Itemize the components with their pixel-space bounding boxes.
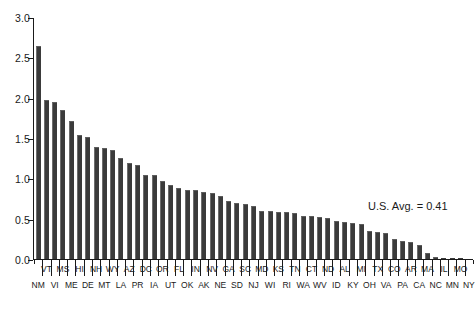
bar-slot bbox=[448, 18, 456, 259]
bar-slot bbox=[365, 18, 373, 259]
x-axis-label-il: IL bbox=[440, 264, 447, 275]
bar-slot bbox=[109, 18, 117, 259]
bar-slot bbox=[398, 18, 406, 259]
y-tick-label: 3.0 bbox=[15, 12, 30, 24]
bar-slot bbox=[42, 18, 50, 259]
bar bbox=[334, 221, 339, 259]
bar-slot bbox=[224, 18, 232, 259]
label-separator bbox=[59, 264, 60, 276]
bar bbox=[350, 223, 355, 259]
bar bbox=[69, 121, 74, 259]
bar bbox=[325, 218, 330, 259]
label-separator bbox=[175, 264, 176, 276]
bar bbox=[135, 165, 140, 259]
x-axis-label-pa: PA bbox=[397, 280, 408, 291]
y-tick-label: 2.5 bbox=[15, 52, 30, 64]
bar bbox=[450, 258, 455, 259]
bar bbox=[259, 211, 264, 259]
y-tick-label: 1.0 bbox=[15, 173, 30, 185]
label-separator bbox=[51, 264, 52, 276]
label-separator bbox=[415, 264, 416, 276]
label-separator bbox=[167, 264, 168, 276]
label-separator bbox=[249, 264, 250, 276]
bar-slot bbox=[291, 18, 299, 259]
label-separator bbox=[100, 264, 101, 276]
label-separator bbox=[208, 264, 209, 276]
bar-slot bbox=[167, 18, 175, 259]
bar-slot bbox=[51, 18, 59, 259]
bar-slot bbox=[249, 18, 257, 259]
bar-slot bbox=[307, 18, 315, 259]
bar-slot bbox=[456, 18, 464, 259]
x-axis-label-sd: SD bbox=[231, 280, 243, 291]
label-separator bbox=[423, 264, 424, 276]
plot-area: 0.00.51.01.52.02.53.0 NMVTVIMSMEHIDENHMT… bbox=[33, 18, 473, 260]
label-separator bbox=[382, 264, 383, 276]
bar bbox=[243, 204, 248, 259]
bar bbox=[118, 158, 123, 259]
bar bbox=[94, 147, 99, 259]
bar-slot bbox=[183, 18, 191, 259]
bar-slot bbox=[100, 18, 108, 259]
bar bbox=[152, 175, 157, 259]
bar-slot bbox=[241, 18, 249, 259]
label-separator bbox=[150, 264, 151, 276]
label-separator bbox=[274, 264, 275, 276]
bar bbox=[160, 181, 165, 259]
label-separator bbox=[398, 264, 399, 276]
bar-slot bbox=[258, 18, 266, 259]
label-separator bbox=[432, 264, 433, 276]
bar-slot bbox=[432, 18, 440, 259]
x-axis-label-nj: NJ bbox=[248, 280, 258, 291]
label-separator bbox=[390, 264, 391, 276]
bar-slot bbox=[407, 18, 415, 259]
label-separator bbox=[142, 264, 143, 276]
x-axis-label-hi: HI bbox=[75, 264, 84, 275]
bar-slot bbox=[340, 18, 348, 259]
x-axis-label-ca: CA bbox=[413, 280, 425, 291]
x-axis-label-ri: RI bbox=[282, 280, 291, 291]
label-separator bbox=[109, 264, 110, 276]
bar bbox=[292, 213, 297, 259]
label-separator bbox=[291, 264, 292, 276]
bar bbox=[143, 175, 148, 259]
bar bbox=[375, 232, 380, 259]
bar bbox=[102, 148, 107, 259]
bar-slot bbox=[84, 18, 92, 259]
label-separator bbox=[266, 264, 267, 276]
label-separator bbox=[307, 264, 308, 276]
x-axis-label-vi: VI bbox=[51, 280, 59, 291]
bar-slot bbox=[59, 18, 67, 259]
bar bbox=[218, 196, 223, 259]
bar bbox=[276, 212, 281, 259]
x-axis-label-ky: KY bbox=[347, 280, 358, 291]
bar-slot bbox=[382, 18, 390, 259]
bar bbox=[441, 258, 446, 259]
bar-slot bbox=[200, 18, 208, 259]
x-axis-label-wi: WI bbox=[265, 280, 275, 291]
bar-slot bbox=[191, 18, 199, 259]
bar-slot bbox=[357, 18, 365, 259]
bar-slot bbox=[415, 18, 423, 259]
x-axis-label-nm: NM bbox=[32, 280, 45, 291]
label-separator bbox=[133, 264, 134, 276]
y-tick-label: 0.0 bbox=[15, 254, 30, 266]
x-axis-label-va: VA bbox=[381, 280, 392, 291]
x-axis-label-nc: NC bbox=[430, 280, 442, 291]
x-axis-label-ut: UT bbox=[165, 280, 176, 291]
bar bbox=[458, 258, 463, 259]
x-axis-label-mn: MN bbox=[446, 280, 459, 291]
bar bbox=[284, 212, 289, 259]
label-separator bbox=[407, 264, 408, 276]
label-separator bbox=[340, 264, 341, 276]
bar bbox=[400, 241, 405, 259]
bar-slot bbox=[316, 18, 324, 259]
label-separator bbox=[349, 264, 350, 276]
x-axis-label-ok: OK bbox=[181, 280, 193, 291]
label-separator bbox=[117, 264, 118, 276]
label-separator bbox=[84, 264, 85, 276]
x-axis-label-ak: AK bbox=[198, 280, 209, 291]
bar bbox=[127, 163, 132, 259]
x-axis-label-ny: NY bbox=[463, 280, 475, 291]
bar bbox=[268, 211, 273, 259]
